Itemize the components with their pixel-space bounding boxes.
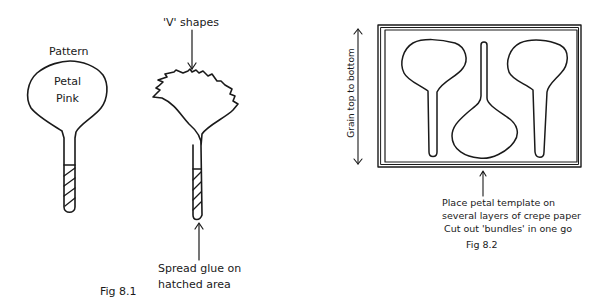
hatch-lines-right	[193, 172, 201, 210]
petal-text-line1: Petal	[54, 75, 81, 88]
glue-arrow	[195, 223, 203, 260]
petal-text-line2: Pink	[56, 92, 79, 105]
fig-8-2-caption: Fig 8.2	[466, 238, 498, 251]
glue-label-line1: Spread glue on	[158, 262, 241, 275]
pattern-label: Pattern	[49, 45, 89, 58]
v-shapes-label: 'V' shapes	[163, 16, 219, 29]
instruction-line3: Cut out 'bundles' in one go	[444, 222, 572, 235]
grain-label: Grain top to bottom	[346, 45, 356, 141]
diagram-drawing	[0, 0, 613, 308]
glue-label-line2: hatched area	[158, 278, 231, 291]
fig-8-1-caption: Fig 8.1	[100, 285, 137, 298]
instruction-line2: several layers of crepe paper	[442, 209, 581, 222]
frame-petal-left	[402, 40, 466, 157]
hatch-lines-left	[64, 168, 75, 206]
instruction-line1: Place petal template on	[442, 196, 555, 209]
frame-petal-right	[508, 40, 568, 157]
v-shapes-arrow	[188, 30, 196, 69]
instruction-arrow	[480, 171, 486, 196]
